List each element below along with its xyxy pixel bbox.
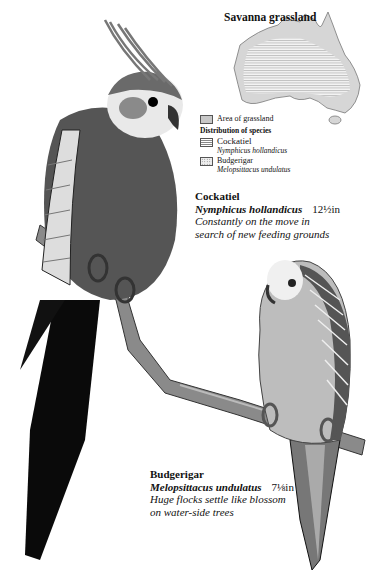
- legend-heading: Distribution of species: [200, 126, 370, 135]
- budgerigar-dot-swatch-icon: [200, 157, 213, 166]
- species-description: Constantly on the move in: [195, 215, 378, 228]
- budgerigar-illustration: [259, 260, 351, 570]
- legend-item-grassland: Area of grassland: [200, 114, 370, 124]
- budgerigar-caption: Budgerigar Melopsittacus undulatus7⅛in H…: [150, 468, 350, 518]
- cockatiel-caption: Cockatiel Nymphicus hollandicus12½in Con…: [195, 190, 378, 240]
- grassland-swatch-icon: [200, 115, 213, 124]
- species-size: 12½in: [312, 203, 340, 215]
- australia-distribution-map: [234, 12, 360, 124]
- map-title: Savanna grassland: [224, 11, 316, 23]
- species-name: Budgerigar: [150, 468, 350, 481]
- legend-item-budgerigar: Budgerigar Melopsittacus undulatus: [200, 156, 370, 174]
- species-description: Huge flocks settle like blossom: [150, 493, 350, 506]
- map-legend: Area of grassland Distribution of specie…: [200, 114, 370, 174]
- legend-latin: Nymphicus hollandicus: [217, 146, 287, 155]
- species-name: Cockatiel: [195, 190, 378, 203]
- legend-latin: Melopsittacus undulatus: [217, 165, 291, 174]
- legend-label: Cockatiel: [217, 136, 252, 146]
- species-latin: Nymphicus hollandicus: [195, 203, 302, 215]
- legend-label: Area of grassland: [217, 114, 273, 123]
- cockatiel-hatch-swatch-icon: [200, 138, 213, 147]
- species-latin: Melopsittacus undulatus: [150, 481, 262, 493]
- species-size: 7⅛in: [272, 481, 294, 493]
- species-description: on water-side trees: [150, 506, 350, 519]
- species-description: search of new feeding grounds: [195, 228, 378, 241]
- legend-item-cockatiel: Cockatiel Nymphicus hollandicus: [200, 137, 370, 155]
- legend-label: Budgerigar: [217, 156, 253, 165]
